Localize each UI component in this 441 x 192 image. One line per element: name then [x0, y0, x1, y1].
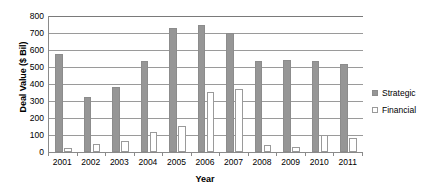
y-axis-tick-label: 400	[18, 80, 44, 89]
x-axis-tick-mark	[191, 152, 192, 156]
gridline	[49, 50, 363, 51]
legend-label: Strategic	[382, 88, 416, 98]
bar-strategic-2001	[55, 54, 63, 152]
bar-financial-2002	[93, 144, 101, 152]
y-axis-tick-label: 200	[18, 114, 44, 123]
x-axis-tick-labels: 2001200220032004200520062007200820092010…	[48, 158, 362, 172]
bar-financial-2006	[207, 92, 215, 152]
bar-financial-2005	[178, 126, 186, 152]
x-axis-tick-mark	[248, 152, 249, 156]
gridline	[49, 33, 363, 34]
chart-legend: StrategicFinancial	[372, 86, 440, 120]
x-axis-tick-mark	[305, 152, 306, 156]
x-axis-tick-mark	[77, 152, 78, 156]
bar-strategic-2004	[141, 61, 149, 152]
filled-gray-square-icon	[372, 90, 378, 96]
bar-financial-2001	[64, 148, 72, 152]
x-axis-tick-mark	[105, 152, 106, 156]
bar-financial-2011	[349, 138, 357, 152]
bar-financial-2003	[121, 141, 129, 152]
y-axis-tick-label: 800	[18, 12, 44, 21]
bar-strategic-2007	[226, 33, 234, 152]
x-axis-tick-mark	[48, 152, 49, 156]
x-axis-tick-mark	[162, 152, 163, 156]
x-axis-tick-mark	[219, 152, 220, 156]
bar-strategic-2010	[312, 61, 320, 152]
bar-financial-2009	[292, 147, 300, 152]
y-axis-tick-label: 600	[18, 46, 44, 55]
gridline	[49, 16, 363, 17]
x-axis-title: Year	[48, 174, 362, 184]
legend-item-financial[interactable]: Financial	[372, 103, 440, 117]
x-axis-tick-mark	[333, 152, 334, 156]
x-axis-tick-mark	[276, 152, 277, 156]
y-axis-tick-labels: 0100200300400500600700800	[18, 16, 44, 152]
bar-strategic-2005	[169, 28, 177, 152]
y-axis-tick-label: 700	[18, 29, 44, 38]
legend-item-strategic[interactable]: Strategic	[372, 86, 440, 100]
bar-strategic-2008	[255, 61, 263, 152]
bar-strategic-2003	[112, 87, 120, 152]
y-axis-tick-label: 300	[18, 97, 44, 106]
x-axis-tick-mark	[362, 152, 363, 156]
legend-label: Financial	[382, 105, 416, 115]
bar-financial-2010	[321, 135, 329, 152]
bar-strategic-2002	[84, 97, 92, 152]
plot-area	[48, 16, 363, 153]
bar-financial-2004	[150, 132, 158, 152]
y-axis-tick-label: 100	[18, 131, 44, 140]
bar-chart: Deal Value ($ Bil) 010020030040050060070…	[0, 0, 441, 192]
y-axis-tick-label: 0	[18, 148, 44, 157]
bar-strategic-2006	[198, 25, 206, 152]
bar-strategic-2011	[340, 64, 348, 152]
bar-financial-2008	[264, 145, 272, 152]
x-axis-tick-mark	[134, 152, 135, 156]
bar-strategic-2009	[283, 60, 291, 152]
x-axis-tick-label: 2011	[328, 158, 368, 167]
outlined-white-square-icon	[372, 107, 378, 113]
y-axis-tick-label: 500	[18, 63, 44, 72]
bar-financial-2007	[235, 89, 243, 152]
